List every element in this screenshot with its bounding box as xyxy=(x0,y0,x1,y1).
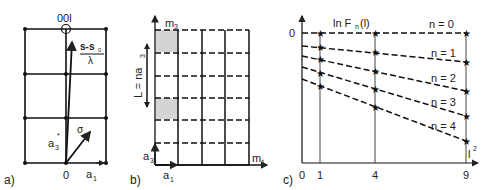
svg-text:n: n xyxy=(355,23,359,30)
svg-text:3: 3 xyxy=(174,23,178,30)
svg-text:n = 1: n = 1 xyxy=(431,47,456,59)
svg-text:★: ★ xyxy=(316,54,325,65)
x-tick-labels: 0 1 4 9 xyxy=(299,169,469,181)
panel-b-domain-grid xyxy=(147,16,267,165)
svg-text:m: m xyxy=(84,131,89,137)
svg-text:★: ★ xyxy=(371,84,380,95)
svg-text:★: ★ xyxy=(316,68,325,79)
svg-text:★: ★ xyxy=(462,111,471,122)
m1-label: m 1 xyxy=(252,152,265,166)
svg-text:n = 2: n = 2 xyxy=(431,72,456,84)
shaded-cell-middle xyxy=(156,98,178,119)
svg-text:a: a xyxy=(86,168,93,180)
panel-a-label: a) xyxy=(4,173,15,187)
L-label: L = na 3 xyxy=(132,54,146,98)
panel-b-label: b) xyxy=(130,173,141,187)
svg-text:l: l xyxy=(468,148,470,160)
svg-text:(l): (l) xyxy=(360,17,370,29)
svg-text:m: m xyxy=(165,17,174,29)
scattering-vector-arrow xyxy=(66,42,72,163)
svg-text:★: ★ xyxy=(371,47,380,58)
vector-label-fraction: s-s 0 λ xyxy=(80,41,104,66)
svg-text:★: ★ xyxy=(462,57,471,68)
y-axis-label: ln F n (l) xyxy=(333,17,370,30)
svg-text:*: * xyxy=(57,132,60,139)
svg-text:★: ★ xyxy=(462,28,471,39)
x-axis-label: l 2 xyxy=(468,145,477,160)
svg-text:n = 3: n = 3 xyxy=(431,96,456,108)
a1-label-b: a 1 xyxy=(163,169,174,183)
svg-text:s-s: s-s xyxy=(80,41,95,52)
svg-text:a: a xyxy=(48,137,55,149)
svg-text:★: ★ xyxy=(316,81,325,92)
svg-text:★: ★ xyxy=(316,42,325,53)
svg-text:L = na: L = na xyxy=(132,67,144,98)
svg-text:a: a xyxy=(143,150,150,162)
svg-text:★: ★ xyxy=(462,86,471,97)
panel-c-label: c) xyxy=(283,173,293,187)
panel-c-plot: ★★★ ★★★ ★★★ ★★★ ★★★ xyxy=(302,16,478,163)
svg-text:★: ★ xyxy=(371,28,380,39)
svg-text:n = 4: n = 4 xyxy=(431,120,456,132)
svg-text:m: m xyxy=(252,152,261,164)
svg-text:★: ★ xyxy=(316,28,325,39)
svg-text:1: 1 xyxy=(261,159,265,166)
a1-label: a 1 xyxy=(86,168,97,182)
svg-text:n = 0: n = 0 xyxy=(429,18,454,30)
svg-text:0: 0 xyxy=(98,47,102,53)
m3-label: m 3 xyxy=(165,17,178,30)
svg-text:★: ★ xyxy=(371,102,380,113)
sigma-label: σ m xyxy=(77,124,89,137)
shaded-cell-top xyxy=(156,30,178,52)
svg-text:3: 3 xyxy=(55,144,59,151)
svg-text:★: ★ xyxy=(462,136,471,147)
svg-text:3: 3 xyxy=(139,54,146,58)
svg-text:1: 1 xyxy=(170,176,174,183)
a3-star-label: a 3 * xyxy=(48,132,60,151)
svg-text:σ: σ xyxy=(77,124,84,135)
svg-text:3: 3 xyxy=(150,157,154,164)
svg-text:4: 4 xyxy=(372,169,378,181)
svg-text:1: 1 xyxy=(93,175,97,182)
a3-label-b: a 3 xyxy=(143,150,154,164)
y-zero-tick: 0 xyxy=(289,27,295,39)
svg-text:9: 9 xyxy=(463,169,469,181)
svg-text:ln F: ln F xyxy=(333,17,352,29)
svg-text:2: 2 xyxy=(473,145,477,152)
svg-text:λ: λ xyxy=(88,55,93,66)
svg-text:0: 0 xyxy=(299,169,305,181)
figure-canvas: 00l s-s 0 λ σ m a 3 * 0 a 1 a) xyxy=(0,0,501,190)
series-labels: n = 0 n = 1 n = 2 n = 3 n = 4 xyxy=(429,18,456,132)
svg-text:★: ★ xyxy=(371,66,380,77)
svg-text:a: a xyxy=(163,169,170,181)
label-00l: 00l xyxy=(57,12,72,24)
svg-text:1: 1 xyxy=(317,169,323,181)
origin-label: 0 xyxy=(63,169,69,181)
